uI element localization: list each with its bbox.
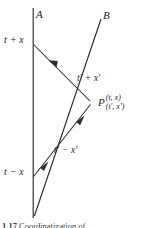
event-p-coordinates: (t, x) (t′, x′) — [106, 93, 125, 111]
worldline-b-line — [34, 19, 101, 216]
figure-caption-number: 1.17 — [2, 221, 17, 228]
event-p-coords-unprimed: (t, x) — [106, 93, 125, 102]
worldline-a-label: A — [36, 9, 43, 20]
figure-caption: 1.17 Coordinatization of — [2, 221, 141, 228]
figure-root: A B t + x t − x t′ + x′ t′ − x′ P (t, x)… — [0, 0, 141, 228]
event-p-label: P — [98, 96, 105, 108]
label-t-plus-x: t + x — [4, 35, 24, 45]
label-t-prime-minus-x-prime: t′ − x′ — [54, 146, 78, 156]
worldline-b-label: B — [103, 10, 110, 21]
event-p-label-group: P (t, x) (t′, x′) — [98, 93, 124, 111]
null-ray-p-to-a-arrowhead — [48, 60, 58, 67]
label-t-prime-plus-x-prime: t′ + x′ — [77, 74, 101, 84]
event-p-coords-primed: (t′, x′) — [106, 102, 125, 111]
figure-caption-text: Coordinatization of — [19, 221, 85, 228]
null-ray-a-to-p — [34, 105, 91, 177]
label-t-minus-x: t − x — [4, 167, 24, 177]
